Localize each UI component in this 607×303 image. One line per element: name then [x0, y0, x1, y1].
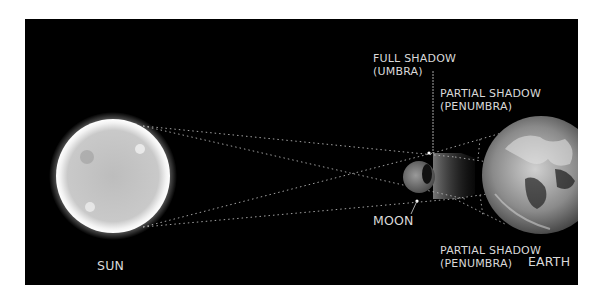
penumbra-bottom-label: PARTIAL SHADOW (PENUMBRA) — [440, 244, 541, 270]
umbra-cone — [433, 153, 475, 199]
umbra-label: FULL SHADOW (UMBRA) — [373, 52, 456, 78]
penumbra-top-label-line1: PARTIAL SHADOW — [440, 87, 541, 100]
penumbra-top-label-line2: (PENUMBRA) — [440, 100, 541, 113]
umbra-label-line1: FULL SHADOW — [373, 52, 456, 65]
earth — [482, 116, 578, 234]
umbra-label-line2: (UMBRA) — [373, 65, 456, 78]
sun — [49, 112, 177, 240]
earth-label: EARTH — [528, 255, 570, 268]
penumbra-bottom-label-line2: (PENUMBRA) — [440, 257, 541, 270]
moon-label: MOON — [373, 214, 414, 227]
sun-label: SUN — [97, 259, 124, 272]
penumbra-top-label: PARTIAL SHADOW (PENUMBRA) — [440, 87, 541, 113]
penumbra-bottom-label-line1: PARTIAL SHADOW — [440, 244, 541, 257]
diagram-frame: FULL SHADOW (UMBRA) PARTIAL SHADOW (PENU… — [25, 19, 578, 285]
moon — [403, 151, 435, 202]
